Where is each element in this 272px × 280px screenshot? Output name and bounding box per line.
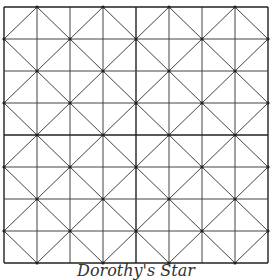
figure-caption: Dorothy's Star: [0, 262, 272, 280]
